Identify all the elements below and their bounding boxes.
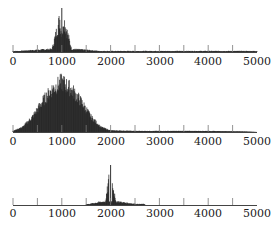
tick-label: 1000 bbox=[48, 135, 76, 148]
tick-label: 3000 bbox=[146, 55, 174, 68]
panel-3-tick-labels: 0 1000 2000 3000 4000 5000 bbox=[10, 207, 272, 220]
tick-label: 4000 bbox=[194, 55, 222, 68]
tick-label: 0 bbox=[10, 135, 17, 148]
panel-3: 0 1000 2000 3000 4000 5000 bbox=[10, 165, 272, 220]
panel-2: 0 1000 2000 3000 4000 5000 bbox=[10, 74, 272, 148]
spectrum-trace bbox=[86, 175, 145, 205]
spectra-figure: 0 1000 2000 3000 4000 5000 0 1000 2000 3… bbox=[0, 0, 277, 226]
panel-1-tick-labels: 0 1000 2000 3000 4000 5000 bbox=[10, 55, 272, 68]
panel-3-x-axis bbox=[13, 198, 257, 206]
tick-label: 2000 bbox=[97, 55, 125, 68]
panel-1: 0 1000 2000 3000 4000 5000 bbox=[10, 8, 272, 68]
tick-label: 4000 bbox=[194, 135, 222, 148]
tick-label: 5000 bbox=[243, 55, 271, 68]
spectrum-trace bbox=[13, 74, 257, 132]
tick-label: 3000 bbox=[146, 135, 174, 148]
tick-label: 0 bbox=[10, 207, 17, 220]
tick-label: 4000 bbox=[194, 207, 222, 220]
tick-label: 2000 bbox=[97, 135, 125, 148]
tick-label: 0 bbox=[10, 55, 17, 68]
panel-2-spectrum bbox=[13, 74, 257, 132]
panel-3-spectrum bbox=[86, 165, 145, 205]
tick-label: 3000 bbox=[146, 207, 174, 220]
tick-label: 2000 bbox=[97, 207, 125, 220]
tick-label: 1000 bbox=[48, 55, 76, 68]
tick-label: 5000 bbox=[243, 207, 271, 220]
tick-label: 1000 bbox=[48, 207, 76, 220]
tick-label: 5000 bbox=[243, 135, 271, 148]
panel-2-tick-labels: 0 1000 2000 3000 4000 5000 bbox=[10, 135, 272, 148]
